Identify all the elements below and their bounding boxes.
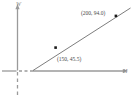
- data-line: [33, 8, 131, 71]
- coordinate-plot-figure: W H (200, 94.0) (150, 45.5): [0, 0, 132, 105]
- y-axis-label: W: [16, 1, 21, 7]
- data-point-label-lower: (150, 45.5): [57, 57, 81, 63]
- plot-canvas: [0, 0, 132, 105]
- data-point-marker-upper: [115, 15, 118, 18]
- data-point-marker-lower: [54, 46, 57, 49]
- data-point-label-upper: (200, 94.0): [81, 11, 105, 17]
- x-axis-label: H: [123, 68, 127, 74]
